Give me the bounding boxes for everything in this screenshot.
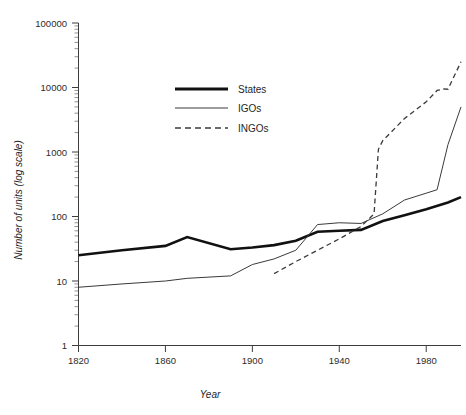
y-tick-label: 1000 — [46, 147, 67, 158]
y-tick-label: 100000 — [35, 18, 67, 29]
x-tick-label: 1940 — [329, 355, 350, 366]
x-tick-label: 1860 — [155, 355, 176, 366]
chart-background — [0, 0, 466, 415]
x-tick-label: 1820 — [68, 355, 89, 366]
legend-label-states: States — [238, 84, 266, 95]
legend-label-igos: IGOs — [238, 103, 261, 114]
y-tick-label: 10 — [56, 276, 67, 287]
y-tick-label: 10000 — [41, 82, 67, 93]
x-tick-label: 1900 — [242, 355, 263, 366]
y-tick-label: 100 — [51, 211, 67, 222]
y-axis-title: Number of units (log scale) — [13, 140, 24, 260]
legend-label-ingos: INGOs — [238, 123, 269, 134]
x-tick-label: 1980 — [416, 355, 437, 366]
figure-container: 110100100010000100000 182018601900194019… — [0, 0, 466, 415]
y-tick-label: 1 — [62, 340, 67, 351]
line-chart: 110100100010000100000 182018601900194019… — [0, 0, 466, 415]
x-axis-title: Year — [200, 389, 221, 400]
